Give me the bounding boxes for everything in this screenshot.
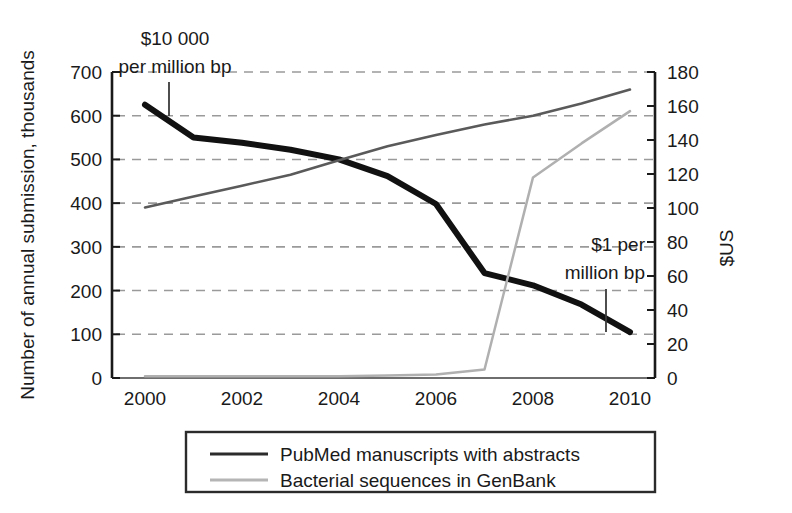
- annotation-text-line1: $10 000: [141, 28, 210, 49]
- legend-label: PubMed manuscripts with abstracts: [280, 444, 580, 465]
- y-axis-right-tick-label: 40: [667, 300, 688, 321]
- y-axis-left-tick-label: 500: [70, 149, 102, 170]
- y-axis-left-tick-label: 700: [70, 62, 102, 83]
- x-axis-tick-label: 2008: [512, 388, 554, 409]
- x-axis-tick-label: 2010: [609, 388, 651, 409]
- x-axis-tick-label: 2004: [318, 388, 361, 409]
- y-axis-right-tick-label: 140: [667, 130, 699, 151]
- y-axis-right-tick-label: 20: [667, 334, 688, 355]
- y-axis-left-tick-label: 600: [70, 106, 102, 127]
- y-axis-left-tick-label: 300: [70, 237, 102, 258]
- y-axis-right-tick-label: 120: [667, 164, 699, 185]
- y-axis-right-tick-label: 0: [667, 368, 678, 389]
- legend: PubMed manuscripts with abstractsBacteri…: [186, 432, 655, 492]
- y-axis-right-tick-label: 100: [667, 198, 699, 219]
- y-axis-right-tick-label: 160: [667, 96, 699, 117]
- y-axis-right-title: $US: [716, 230, 737, 267]
- x-axis-tick-label: 2002: [221, 388, 263, 409]
- x-axis-tick-label: 2000: [124, 388, 166, 409]
- legend-label: Bacterial sequences in GenBank: [280, 470, 556, 491]
- y-axis-left-title: Number of annual submission, thousands: [17, 50, 38, 400]
- y-axis-right-tick-label: 180: [667, 62, 699, 83]
- chart-canvas: 0100200300400500600700 02040608010012014…: [0, 0, 792, 513]
- y-axis-left-tick-label: 200: [70, 281, 102, 302]
- annotation-text-line1: $1 per: [591, 234, 646, 255]
- annotation-text-line2: million bp: [565, 262, 645, 283]
- y-axis-left-tick-label: 100: [70, 324, 102, 345]
- chart-figure: 0100200300400500600700 02040608010012014…: [0, 0, 792, 513]
- y-axis-left-tick-label: 400: [70, 193, 102, 214]
- annotation-text-line2: per million bp: [119, 56, 232, 77]
- y-axis-left-tick-label: 0: [91, 368, 102, 389]
- y-axis-right-tick-label: 80: [667, 232, 688, 253]
- y-axis-right-tick-label: 60: [667, 266, 688, 287]
- x-axis-tick-label: 2006: [415, 388, 457, 409]
